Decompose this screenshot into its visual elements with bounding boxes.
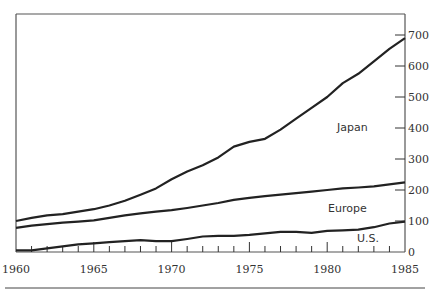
x-tick-label: 1960 xyxy=(2,263,30,276)
x-axis-labels: 196019651970197519801985 xyxy=(2,263,419,276)
y-tick-label: 600 xyxy=(408,60,429,73)
x-tick-label: 1970 xyxy=(158,263,186,276)
y-tick-label: 400 xyxy=(408,122,429,135)
series-label: Japan xyxy=(336,121,368,134)
y-tick-label: 300 xyxy=(408,153,429,166)
y-tick-label: 700 xyxy=(408,29,429,42)
series-label: Europe xyxy=(328,202,367,215)
y-tick-label: 500 xyxy=(408,91,429,104)
x-tick-label: 1980 xyxy=(313,263,341,276)
line-chart: 196019651970197519801985 010020030040050… xyxy=(0,0,437,292)
y-tick-label: 200 xyxy=(408,184,429,197)
series-lines xyxy=(16,38,405,250)
y-axis-labels: 0100200300400500600700 xyxy=(408,29,429,259)
series-labels: JapanEuropeU.S. xyxy=(328,121,379,245)
y-tick-label: 100 xyxy=(408,215,429,228)
x-tick-label: 1975 xyxy=(235,263,263,276)
x-tick-label: 1985 xyxy=(391,263,419,276)
x-tick-label: 1965 xyxy=(80,263,108,276)
series-label: U.S. xyxy=(357,232,379,245)
y-tick-label: 0 xyxy=(408,246,415,259)
y-axis-ticks xyxy=(395,35,405,221)
series-line-us xyxy=(16,222,405,251)
